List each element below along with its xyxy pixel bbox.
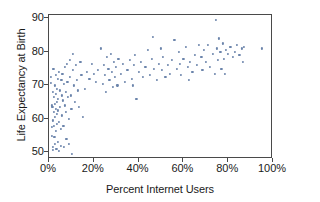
data-point <box>56 88 58 90</box>
data-point <box>99 47 101 49</box>
data-point <box>97 69 99 71</box>
data-point <box>185 46 187 48</box>
data-point <box>64 91 66 93</box>
data-point <box>146 49 148 51</box>
data-point <box>173 39 175 41</box>
data-point <box>232 56 234 58</box>
data-point <box>142 76 144 78</box>
data-point <box>53 96 55 98</box>
data-point <box>86 71 88 73</box>
data-point <box>62 124 64 126</box>
data-point <box>155 79 157 81</box>
data-point <box>102 83 104 85</box>
data-point <box>65 111 67 113</box>
data-point <box>107 67 109 69</box>
data-point <box>54 143 56 145</box>
data-point <box>63 83 65 85</box>
data-point <box>217 59 219 61</box>
y-tick-label: 70 <box>20 79 44 90</box>
data-point <box>63 146 65 148</box>
data-point <box>191 71 193 73</box>
x-tick-label: 40% <box>115 163 161 174</box>
data-point <box>162 56 164 58</box>
data-point <box>54 74 56 76</box>
data-point <box>205 61 207 63</box>
data-point <box>178 51 180 53</box>
data-point <box>108 79 110 81</box>
data-point <box>60 128 62 130</box>
x-tick-label: 100% <box>249 163 290 174</box>
data-point <box>61 94 63 96</box>
data-point <box>140 61 142 63</box>
data-point <box>158 62 160 64</box>
data-point <box>135 98 137 100</box>
data-point <box>196 64 198 66</box>
data-point <box>122 62 124 64</box>
data-point <box>75 64 77 66</box>
data-point <box>198 44 200 46</box>
data-point <box>117 57 119 59</box>
data-point <box>124 81 126 83</box>
data-point <box>55 129 57 131</box>
data-point <box>171 59 173 61</box>
data-point <box>56 113 58 115</box>
data-point <box>50 76 52 78</box>
data-point <box>80 74 82 76</box>
x-tick-label: 0% <box>25 163 71 174</box>
data-point <box>200 56 202 58</box>
data-point <box>223 57 225 59</box>
data-point <box>105 91 107 93</box>
plot-area <box>48 14 272 158</box>
data-point <box>116 84 118 86</box>
data-point <box>182 57 184 59</box>
data-point <box>68 143 70 145</box>
data-point <box>51 106 53 108</box>
data-point <box>71 52 73 54</box>
data-point <box>65 138 67 140</box>
data-point <box>53 111 55 113</box>
data-point <box>76 79 78 81</box>
data-point <box>69 59 71 61</box>
data-point <box>187 66 189 68</box>
data-point <box>90 62 92 64</box>
data-point <box>176 67 178 69</box>
data-point <box>160 47 162 49</box>
data-point <box>225 49 227 51</box>
data-point <box>54 84 56 86</box>
data-point <box>216 47 218 49</box>
data-point <box>68 118 70 120</box>
data-point <box>153 67 155 69</box>
data-point <box>167 64 169 66</box>
data-point <box>188 79 190 81</box>
data-point <box>152 36 154 38</box>
data-point <box>129 59 131 61</box>
data-point <box>236 44 238 46</box>
data-point <box>134 54 136 56</box>
data-point <box>133 64 135 66</box>
data-point <box>243 46 245 48</box>
data-point <box>161 69 163 71</box>
data-point <box>51 126 53 128</box>
data-point <box>59 106 61 108</box>
data-point <box>73 84 75 86</box>
data-point <box>61 73 63 75</box>
data-point <box>54 116 56 118</box>
data-point <box>115 66 117 68</box>
x-tick-label: 20% <box>70 163 116 174</box>
data-point <box>71 153 73 155</box>
data-point <box>77 89 79 91</box>
data-point <box>64 104 66 106</box>
data-point <box>202 49 204 51</box>
data-point <box>194 54 196 56</box>
data-point <box>126 69 128 71</box>
x-tick-label: 60% <box>159 163 205 174</box>
data-point <box>54 103 56 105</box>
data-point <box>70 108 72 110</box>
data-point <box>57 98 59 100</box>
data-point <box>113 61 115 63</box>
data-point <box>112 86 114 88</box>
data-point <box>52 67 54 69</box>
data-point <box>64 66 66 68</box>
x-tick-label: 80% <box>204 163 250 174</box>
y-tick-label: 60 <box>20 112 44 123</box>
